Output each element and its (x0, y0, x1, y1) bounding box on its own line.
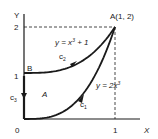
origin-label: 0 (15, 126, 20, 135)
x-tick-1: 1 (113, 126, 118, 135)
curve-c1-label: c1 (80, 100, 87, 110)
curve-c2 (24, 27, 115, 73)
point-b-label: B (27, 64, 32, 73)
equation-c2: y = x3 + 1 (54, 37, 88, 47)
y-tick-2: 2 (14, 23, 19, 32)
point-a-label: A(1, 2) (110, 12, 134, 21)
region-label: A (41, 90, 47, 99)
y-tick-1: 1 (14, 72, 19, 81)
curve-c3-label: c3 (10, 93, 17, 103)
curve-c2-label: c2 (59, 52, 66, 62)
line-integral-diagram: Y X 0 1 1 2 A(1, 2) B y = x3 + 1 y = 2x3… (0, 0, 158, 139)
x-axis-label: X (143, 126, 150, 135)
equation-c1: y = 2x3 (95, 80, 121, 90)
arrow-c3-icon (21, 93, 27, 99)
y-axis-label: Y (14, 11, 20, 20)
